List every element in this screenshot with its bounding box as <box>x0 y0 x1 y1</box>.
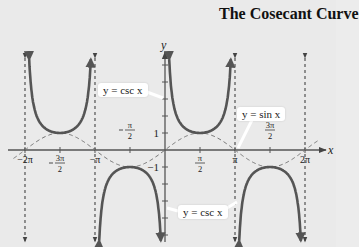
callout-csc-bottom: y = csc x <box>178 205 228 219</box>
x-tick-label-denominator: 2 <box>198 164 202 174</box>
x-tick-label-numerator: 3π <box>266 120 275 130</box>
x-tick-label: 2π <box>300 154 310 165</box>
callout-csc-top: y = csc x <box>98 83 148 97</box>
x-tick-label-denominator: 2 <box>128 131 132 141</box>
callout-pointer <box>167 208 178 211</box>
callout-pointer <box>147 92 163 98</box>
y-tick-label: −1 <box>147 161 159 173</box>
x-tick-label: π <box>232 154 237 165</box>
x-tick-label-denominator: 2 <box>268 131 272 141</box>
callout-pointer <box>238 120 252 148</box>
x-axis-label: x <box>327 143 334 157</box>
csc-curve-branch <box>239 167 301 241</box>
csc-curve-branch <box>29 59 91 133</box>
csc-curve-branch <box>169 59 231 133</box>
x-tick-label: −2π <box>17 154 33 165</box>
x-tick-label-numerator: 3π <box>56 153 65 163</box>
callout-sin: y = sin x <box>237 107 285 121</box>
x-tick-label-numerator: π <box>128 120 133 130</box>
y-axis-label: y <box>160 38 167 52</box>
x-tick-label: −π <box>90 154 101 165</box>
x-tick-label-denominator: 2 <box>58 164 62 174</box>
y-tick-label: 1 <box>154 127 160 139</box>
x-tick-label-numerator: π <box>198 153 203 163</box>
csc-curve-branch <box>99 167 161 241</box>
